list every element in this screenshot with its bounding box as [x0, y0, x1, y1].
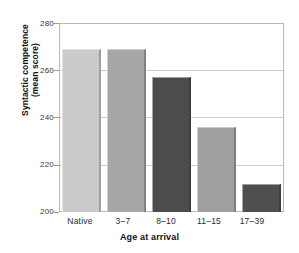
bar-3-7-body [107, 49, 147, 212]
bars-layer [59, 23, 284, 212]
y-tick-label-240: 240 [14, 113, 54, 122]
bar-chart-figure: Syntactic competence (mean score) 280 26… [0, 0, 299, 253]
x-tick-label-17-39: 17–39 [226, 216, 278, 226]
x-axis-title: Age at arrival [0, 232, 299, 242]
y-tick-label-280: 280 [14, 19, 54, 28]
bar-11-15[interactable] [197, 127, 237, 212]
y-tick-label-260: 260 [14, 66, 54, 75]
bar-3-7[interactable] [107, 49, 147, 212]
y-tick-mark-200 [54, 212, 59, 213]
bar-17-39-body [242, 184, 282, 212]
bar-native[interactable] [62, 49, 102, 212]
bar-8-10[interactable] [152, 77, 192, 212]
bar-11-15-body [197, 127, 237, 212]
y-tick-label-200: 200 [14, 207, 54, 216]
bar-native-body [62, 49, 102, 212]
bar-17-39[interactable] [242, 184, 282, 212]
bar-8-10-body [152, 77, 192, 212]
y-tick-label-220: 220 [14, 160, 54, 169]
